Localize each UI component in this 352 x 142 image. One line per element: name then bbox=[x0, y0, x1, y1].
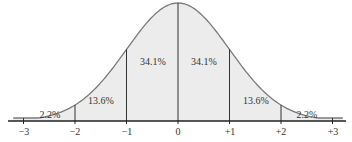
tick-label-neg3: −3 bbox=[19, 126, 30, 137]
tick-label-neg2: −2 bbox=[70, 126, 81, 137]
tick-label-0: 0 bbox=[176, 126, 181, 137]
tick-label-pos3: +3 bbox=[328, 126, 339, 137]
normal-distribution-chart: 2.2% 13.6% 34.1% 34.1% 13.6% 2.2% −3 −2 … bbox=[0, 0, 352, 142]
region-label-neg3-neg2: 2.2% bbox=[40, 109, 61, 120]
tick-label-pos1: +1 bbox=[225, 126, 236, 137]
region-label-pos1-pos2: 13.6% bbox=[243, 95, 269, 106]
region-label-neg1-0: 34.1% bbox=[140, 56, 166, 67]
tick-label-pos2: +2 bbox=[276, 126, 287, 137]
region-label-0-pos1: 34.1% bbox=[191, 56, 217, 67]
tick-label-neg1: −1 bbox=[122, 126, 133, 137]
sigma-dividers bbox=[24, 3, 333, 121]
region-label-pos2-pos3: 2.2% bbox=[297, 109, 318, 120]
region-label-neg2-neg1: 13.6% bbox=[88, 95, 114, 106]
